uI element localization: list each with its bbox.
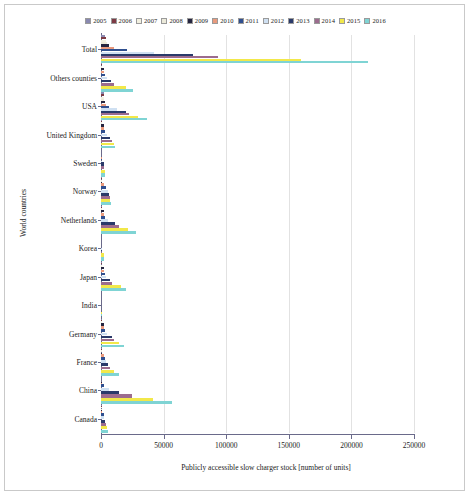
legend-swatch-2006 [111, 18, 117, 24]
y-axis-tick [98, 390, 101, 391]
legend-item-2013[interactable]: 2013 [288, 17, 309, 24]
y-axis-tick [98, 362, 101, 363]
y-axis-label-total: Total [11, 45, 97, 54]
y-axis-title: World countries [19, 189, 28, 237]
x-axis-tick-label: 200000 [340, 441, 363, 450]
legend-swatch-2007 [136, 18, 142, 24]
y-axis-label-france: France [11, 357, 97, 366]
y-axis-label-usa: USA [11, 102, 97, 111]
y-axis-label-korea: Korea [11, 244, 97, 253]
x-axis-tick [226, 435, 227, 439]
legend-item-2008[interactable]: 2008 [161, 17, 182, 24]
bar-group [101, 405, 414, 433]
bar-group [101, 35, 414, 63]
y-axis-label-sweden: Sweden [11, 158, 97, 167]
y-axis-tick [98, 191, 101, 192]
legend-label-2014: 2014 [322, 17, 335, 24]
legend-swatch-2011 [238, 18, 244, 24]
x-axis-tick [414, 435, 415, 439]
y-axis-label-canada: Canada [11, 414, 97, 423]
y-axis-tick [98, 49, 101, 50]
y-axis-label-india: India [11, 301, 97, 310]
legend-item-2006[interactable]: 2006 [111, 17, 132, 24]
bar-group [101, 348, 414, 376]
legend-swatch-2016 [364, 18, 370, 24]
legend-swatch-2008 [161, 18, 167, 24]
bar-group [101, 92, 414, 120]
bar-group [101, 262, 414, 290]
x-axis-tick-label: 150000 [278, 441, 301, 450]
legend-label-2015: 2015 [347, 17, 360, 24]
legend-item-2009[interactable]: 2009 [187, 17, 208, 24]
bar-group [101, 63, 414, 91]
y-axis-tick [98, 163, 101, 164]
legend-item-2015[interactable]: 2015 [339, 17, 360, 24]
y-axis-tick [98, 277, 101, 278]
x-axis-tick-label: 0 [99, 441, 103, 450]
bar-2016[interactable] [101, 430, 108, 433]
x-axis-line [101, 434, 415, 435]
y-axis-tick [98, 334, 101, 335]
y-axis-label-united-kingdom: United Kingdom [11, 130, 97, 139]
y-axis-tick [98, 78, 101, 79]
y-axis-tick [98, 220, 101, 221]
legend-swatch-2014 [314, 18, 320, 24]
legend-item-2007[interactable]: 2007 [136, 17, 157, 24]
legend-item-2016[interactable]: 2016 [364, 17, 385, 24]
legend-label-2010: 2010 [220, 17, 233, 24]
legend-label-2011: 2011 [246, 17, 259, 24]
bar-group [101, 376, 414, 404]
legend-label-2012: 2012 [271, 17, 284, 24]
y-axis-label-japan: Japan [11, 272, 97, 281]
bar-group [101, 120, 414, 148]
legend-item-2010[interactable]: 2010 [212, 17, 233, 24]
legend-item-2012[interactable]: 2012 [263, 17, 284, 24]
y-axis-tick [98, 419, 101, 420]
bar-group [101, 206, 414, 234]
bar-group [101, 291, 414, 319]
x-axis-tick-label: 50000 [154, 441, 173, 450]
bar-group [101, 177, 414, 205]
legend-swatch-2012 [263, 18, 269, 24]
x-axis-tick [101, 435, 102, 439]
y-axis-tick [98, 135, 101, 136]
legend-item-2014[interactable]: 2014 [314, 17, 335, 24]
legend-label-2007: 2007 [144, 17, 157, 24]
legend-label-2006: 2006 [119, 17, 132, 24]
legend-swatch-2010 [212, 18, 218, 24]
x-axis-tick [289, 435, 290, 439]
x-axis-tick-label: 100000 [215, 441, 238, 450]
legend-swatch-2013 [288, 18, 294, 24]
bar-2016[interactable] [101, 257, 104, 261]
y-axis-tick [98, 305, 101, 306]
bar-group [101, 234, 414, 262]
x-axis-tick [164, 435, 165, 439]
y-axis-label-china: China [11, 386, 97, 395]
legend-swatch-2009 [187, 18, 193, 24]
x-axis-tick-label: 250000 [403, 441, 426, 450]
bar-group [101, 319, 414, 347]
gridline [414, 35, 415, 433]
legend-label-2009: 2009 [195, 17, 208, 24]
legend-label-2016: 2016 [372, 17, 385, 24]
legend-label-2013: 2013 [296, 17, 309, 24]
legend-item-2011[interactable]: 2011 [238, 17, 259, 24]
y-axis-label-others-counties: Others counties [11, 73, 97, 82]
legend-swatch-2015 [339, 18, 345, 24]
x-axis-title: Publicly accessible slow charger stock [… [101, 463, 431, 472]
legend-label-2008: 2008 [169, 17, 182, 24]
bar-group [101, 149, 414, 177]
plot-area [101, 35, 414, 433]
chart-frame: 2005200620072008200920102011201220132014… [4, 4, 465, 491]
y-axis-tick [98, 106, 101, 107]
y-axis-label-germany: Germany [11, 329, 97, 338]
x-axis-tick [351, 435, 352, 439]
y-axis-labels: TotalOthers countiesUSAUnited KingdomSwe… [5, 5, 97, 497]
y-axis-tick [98, 248, 101, 249]
